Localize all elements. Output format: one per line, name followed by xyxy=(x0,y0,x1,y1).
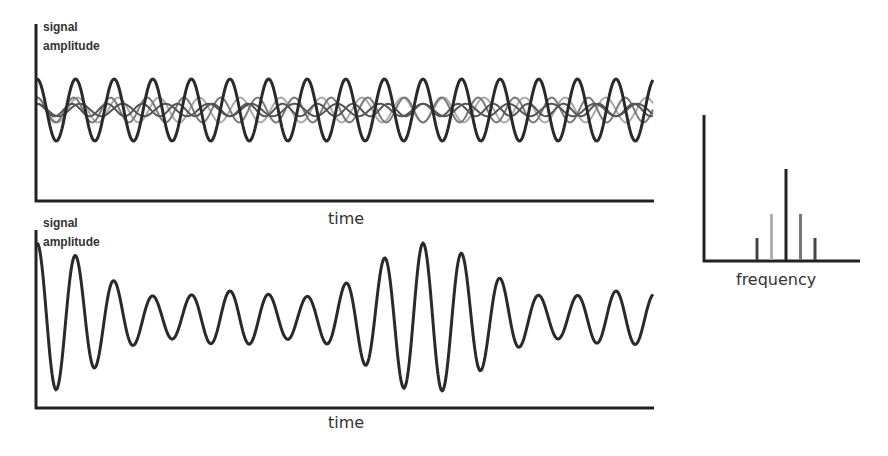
top-x-axis-label: time xyxy=(328,209,364,228)
spectrum-panel xyxy=(703,115,860,262)
bottom-y-axis-label: signal amplitude xyxy=(43,214,100,252)
bottom-x-axis-label: time xyxy=(328,413,364,432)
component-waves xyxy=(37,79,653,141)
y-label-line2: amplitude xyxy=(43,233,100,252)
y-label-line1: signal xyxy=(43,214,100,233)
y-label-line2: amplitude xyxy=(43,37,100,56)
top-panel xyxy=(35,24,654,202)
top-y-axis-label: signal amplitude xyxy=(43,18,100,56)
bottom-panel xyxy=(35,230,654,409)
spectrum-bars xyxy=(757,169,815,260)
spectrum-x-axis-label: frequency xyxy=(736,270,816,289)
figure-canvas xyxy=(0,0,888,456)
y-label-line1: signal xyxy=(43,18,100,37)
sum-signal-wave xyxy=(37,243,653,391)
